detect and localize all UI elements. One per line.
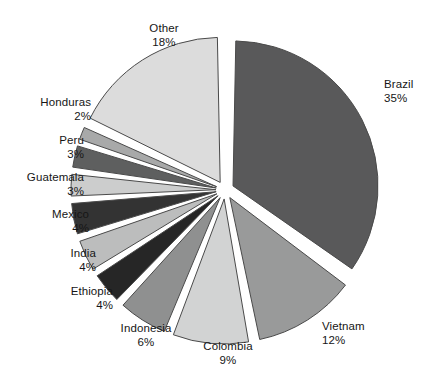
pie-label-peru: Peru3% [0,134,84,161]
pie-label-name: Other [104,22,224,36]
pie-label-percent: 18% [104,36,224,50]
pie-chart: Brazil35%Vietnam12%Colombia9%Indonesia6%… [0,0,426,376]
pie-label-ethiopia: Ethiopia4% [0,285,113,312]
pie-label-percent: 4% [0,222,89,236]
pie-label-name: India [0,247,96,261]
pie-label-name: Mexico [0,208,89,222]
pie-label-percent: 9% [168,354,288,368]
pie-label-brazil: Brazil35% [384,78,413,105]
pie-label-india: India4% [0,247,96,274]
pie-label-percent: 35% [384,92,413,106]
pie-label-other: Other18% [104,22,224,49]
pie-label-percent: 3% [0,148,84,162]
pie-label-name: Ethiopia [0,285,113,299]
pie-label-percent: 12% [322,334,365,348]
pie-label-percent: 4% [0,261,96,275]
pie-label-percent: 6% [86,336,206,350]
pie-label-name: Peru [0,134,84,148]
pie-label-honduras: Honduras2% [0,96,91,123]
pie-label-name: Vietnam [322,320,365,334]
pie-label-name: Indonesia [86,322,206,336]
pie-label-guatemala: Guatemala3% [0,171,84,198]
pie-label-vietnam: Vietnam12% [322,320,365,347]
pie-label-indonesia: Indonesia6% [86,322,206,349]
pie-label-name: Brazil [384,78,413,92]
pie-label-percent: 2% [0,110,91,124]
pie-label-mexico: Mexico4% [0,208,89,235]
pie-label-name: Honduras [0,96,91,110]
pie-label-name: Guatemala [0,171,84,185]
pie-label-percent: 3% [0,185,84,199]
pie-label-percent: 4% [0,299,113,313]
